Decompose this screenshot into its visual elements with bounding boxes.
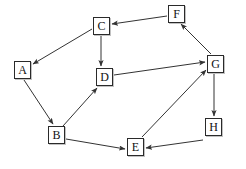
graph-edge-a-b — [24, 80, 53, 124]
graph-node-d[interactable]: D — [96, 68, 113, 86]
edge-layer — [0, 0, 246, 169]
graph-node-c[interactable]: C — [93, 17, 110, 35]
graph-edge-d-g — [114, 62, 205, 75]
graph-node-h[interactable]: H — [205, 118, 222, 136]
graph-edge-h-e — [146, 140, 203, 148]
graph-node-b[interactable]: B — [48, 126, 65, 144]
graph-node-a[interactable]: A — [14, 61, 31, 79]
graph-edge-c-a — [33, 29, 92, 64]
graph-edge-b-d — [63, 88, 97, 126]
graph-diagram: A B C D E F G H — [0, 0, 246, 169]
graph-node-f[interactable]: F — [168, 5, 185, 23]
graph-node-e[interactable]: E — [127, 138, 144, 156]
graph-edge-b-e — [66, 139, 125, 149]
graph-edge-f-c — [112, 16, 167, 24]
graph-edge-e-g — [142, 70, 206, 137]
graph-edge-g-f — [181, 24, 211, 54]
graph-node-g[interactable]: G — [207, 55, 224, 73]
